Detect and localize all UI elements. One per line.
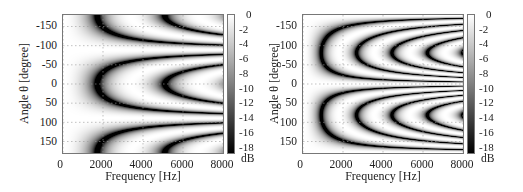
y-tick: 150 — [263, 135, 297, 147]
y-tick: 0 — [23, 77, 57, 89]
colorbar-tick: -2 — [479, 24, 488, 35]
x-tick: 8000 — [202, 158, 242, 170]
y-tick: -150 — [263, 19, 297, 31]
colorbar-tick: -6 — [479, 53, 488, 64]
y-tick: -100 — [23, 39, 57, 51]
y-tick: -50 — [23, 58, 57, 70]
colorbar-tick: 0 — [486, 9, 492, 20]
x-axis-label: Frequency [Hz] — [62, 170, 224, 183]
y-tick: -100 — [263, 39, 297, 51]
y-tick: 100 — [23, 116, 57, 128]
y-tick: 50 — [263, 96, 297, 108]
colorbar-tick: -14 — [479, 112, 494, 123]
y-tick: 0 — [263, 77, 297, 89]
x-tick: 0 — [280, 158, 320, 170]
y-tick: -150 — [23, 19, 57, 31]
colorbar-tick: -8 — [479, 68, 488, 79]
right-heatmap — [302, 14, 464, 154]
heatmap-canvas — [63, 15, 223, 153]
x-axis-label: Frequency [Hz] — [302, 170, 464, 183]
colorbar-tick: -18 — [479, 142, 494, 153]
y-tick: -50 — [263, 58, 297, 70]
colorbar-tick: -10 — [479, 83, 494, 94]
left-chart-panel: Angle θ [degree] -150 -100 -50 0 50 100 … — [0, 0, 262, 192]
colorbar-tick: -16 — [479, 127, 494, 138]
heatmap-canvas — [303, 15, 463, 153]
x-tick: 0 — [40, 158, 80, 170]
right-chart-panel: Angle θ [degree] -150 -100 -50 0 50 100 … — [240, 0, 502, 192]
y-tick: 150 — [23, 135, 57, 147]
y-tick: 100 — [263, 116, 297, 128]
colorbar — [227, 14, 235, 154]
colorbar-tick: -4 — [479, 38, 488, 49]
colorbar-unit-label: dB — [481, 152, 494, 164]
colorbar — [467, 14, 475, 154]
colorbar-tick: -12 — [479, 97, 494, 108]
x-tick: 8000 — [442, 158, 482, 170]
left-heatmap — [62, 14, 224, 154]
y-tick: 50 — [23, 96, 57, 108]
